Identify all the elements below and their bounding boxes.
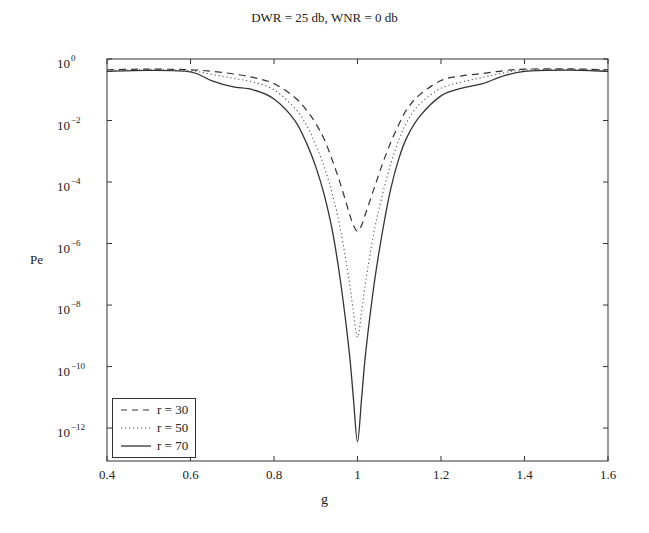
x-tick-label: 0.8	[266, 467, 282, 483]
y-tick-label: 10−10	[57, 360, 85, 379]
plot-canvas	[0, 0, 649, 533]
x-tick-label: 0.6	[182, 467, 198, 483]
dashed-line-icon	[121, 408, 153, 412]
curve-r50	[107, 69, 608, 337]
legend-label: r = 70	[157, 438, 188, 454]
x-tick-label: 1.4	[516, 467, 532, 483]
legend-item-r70: r = 70	[113, 438, 195, 456]
y-tick-label: 10−2	[57, 114, 81, 133]
x-tick-label: 1	[354, 467, 361, 483]
x-tick-label: 0.4	[99, 467, 115, 483]
curve-r70	[107, 70, 608, 442]
legend-item-r50: r = 50	[113, 420, 195, 438]
y-tick-label: 10−12	[57, 422, 85, 441]
solid-line-icon	[121, 444, 153, 448]
legend-label: r = 50	[157, 420, 188, 436]
x-tick-label: 1.6	[600, 467, 616, 483]
chart-title: DWR = 25 db, WNR = 0 db	[0, 10, 649, 26]
data-curves	[107, 69, 608, 442]
legend-label: r = 30	[157, 402, 188, 418]
y-tick-label: 10−8	[57, 299, 81, 318]
legend-item-r30: r = 30	[113, 402, 195, 420]
y-tick-label: 100	[57, 53, 76, 72]
curve-r30	[107, 69, 608, 231]
y-tick-label: 10−6	[57, 237, 81, 256]
x-tick-label: 1.2	[433, 467, 449, 483]
y-tick-label: 10−4	[57, 176, 81, 195]
dotted-line-icon	[121, 426, 153, 430]
legend: r = 30 r = 50 r = 70	[112, 398, 196, 458]
x-axis-label: g	[0, 492, 649, 508]
y-axis-label: Pe	[30, 252, 43, 268]
